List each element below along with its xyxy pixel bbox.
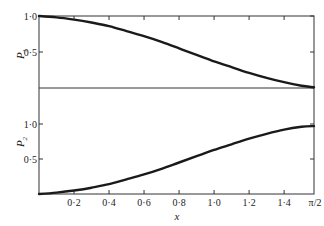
top-panel-ticks <box>74 16 284 20</box>
x-tick-label: 0·6 <box>137 197 150 208</box>
x-tick-label: 1·2 <box>242 197 255 208</box>
y-tick-label: 1·0 <box>24 119 37 130</box>
plot-frame <box>39 16 314 194</box>
bottom-panel-ticks <box>74 190 284 194</box>
p1-curve <box>39 16 314 87</box>
chart-figure: 0·51·00·51·0 0·20·40·60·81·01·21·4π/2 P1… <box>0 0 324 226</box>
x-tick-label: 0·8 <box>172 197 185 208</box>
x-tick-label: 0·2 <box>67 197 80 208</box>
x-tick-label: 0·4 <box>102 197 115 208</box>
x-tick-label: 1·0 <box>207 197 220 208</box>
y-tick-label: 0·5 <box>24 154 37 165</box>
p2-curve <box>39 126 314 194</box>
y-tick-label: 1·0 <box>24 11 37 22</box>
x-tick-labels: 0·20·40·60·81·01·21·4π/2 <box>67 197 321 208</box>
x-axis-label: x <box>174 210 180 222</box>
x-tick-label: 1·4 <box>277 197 290 208</box>
bottom-y-axis-label: P2 <box>14 136 29 148</box>
x-tick-label: π/2 <box>309 197 322 208</box>
